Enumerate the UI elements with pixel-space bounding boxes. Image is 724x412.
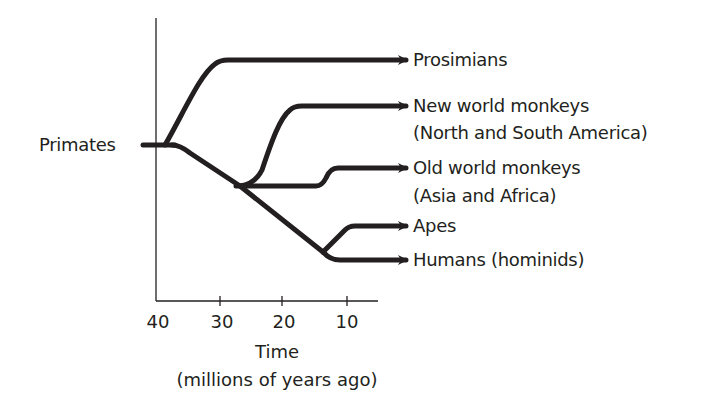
old-world-monkeys-label: Old world monkeys: [413, 157, 580, 179]
main-lineage: [172, 145, 323, 252]
apes-label: Apes: [413, 215, 456, 237]
old-world-monkeys-region-label: (Asia and Africa): [413, 185, 556, 207]
humans-branch: [323, 252, 406, 260]
phylogenetic-tree: [0, 0, 724, 412]
new-world-monkeys-label: New world monkeys: [413, 95, 589, 117]
new-world-monkeys-region-label: (North and South America): [413, 122, 647, 144]
x-axis-subtitle: (millions of years ago): [177, 369, 378, 391]
new-world-monkeys-branch: [240, 106, 406, 186]
prosimians-label: Prosimians: [413, 49, 507, 71]
x-axis-title: Time: [255, 341, 299, 363]
x-tick-20: 20: [273, 311, 296, 333]
prosimians-branch: [165, 60, 406, 145]
x-tick-10: 10: [336, 311, 359, 333]
humans-label: Humans (hominids): [413, 249, 584, 271]
primates-label: Primates: [39, 134, 116, 156]
x-tick-40: 40: [147, 311, 170, 333]
x-tick-30: 30: [211, 311, 234, 333]
apes-branch: [323, 226, 406, 252]
